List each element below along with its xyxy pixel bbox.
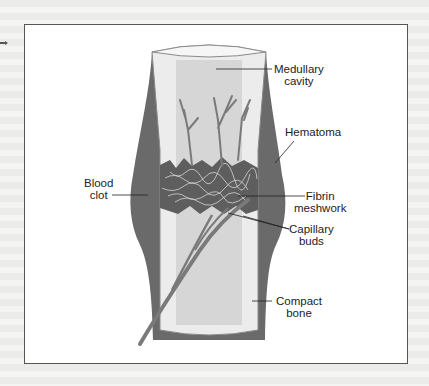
label-compact-bone: Compact bone [276,295,322,319]
label-capillary-buds: Capillary buds [289,223,334,247]
label-blood-clot: Blood clot [84,177,113,201]
label-hematoma: Hematoma [285,126,341,138]
label-medullary-cavity: Medullary cavity [274,63,324,87]
label-fibrin-meshwork: Fibrin meshwork [294,190,346,214]
bone-fracture-illustration [0,0,429,386]
